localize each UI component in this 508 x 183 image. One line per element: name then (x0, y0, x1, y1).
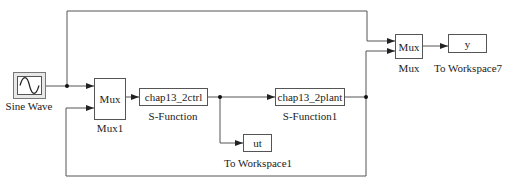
signal-wires (0, 0, 508, 183)
ws1-text: ut (253, 137, 262, 149)
mux-block[interactable]: Mux (395, 34, 423, 59)
to-workspace7-block[interactable]: y (448, 34, 487, 53)
wire-plant-to-mux (366, 51, 395, 97)
sine-wave-label: Sine Wave (6, 100, 53, 112)
mux-label: Mux (399, 62, 420, 74)
wire-sine-to-mux (67, 11, 395, 86)
branch-point (218, 95, 222, 99)
to-workspace1-label: To Workspace1 (224, 157, 292, 169)
s-function-label: S-Function (149, 110, 198, 122)
to-workspace1-block[interactable]: ut (243, 134, 272, 152)
mux1-block[interactable]: Mux (94, 78, 126, 120)
ctrl-text: chap13_2ctrl (145, 91, 202, 103)
to-workspace7-label: To Workspace7 (434, 62, 502, 74)
mux-text: Mux (399, 41, 420, 53)
mux1-label: Mux1 (97, 122, 123, 134)
s-function-plant-block[interactable]: chap13_2plant (275, 88, 345, 106)
plant-text: chap13_2plant (278, 91, 343, 103)
s-function-ctrl-block[interactable]: chap13_2ctrl (139, 88, 208, 106)
s-function1-label: S-Function1 (283, 110, 337, 122)
branch-point (65, 84, 69, 88)
branch-point (364, 95, 368, 99)
sine-wave-icon (17, 76, 42, 95)
wire-ctrl-to-ws1 (220, 97, 243, 143)
ws7-text: y (465, 38, 471, 50)
sine-wave-block[interactable] (13, 72, 46, 99)
mux1-text: Mux (100, 93, 121, 105)
